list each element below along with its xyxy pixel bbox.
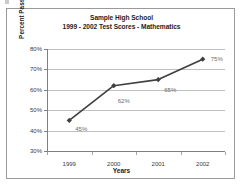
data-point-label: 65%: [164, 87, 176, 93]
x-axis-tick-label: 2001: [152, 161, 165, 167]
data-point-label: 75%: [211, 56, 223, 62]
y-axis-tick-label: 80%: [30, 46, 42, 52]
chart-subtitle: 1999 - 2002 Test Scores - Mathematics: [7, 22, 236, 31]
data-point-marker: [156, 77, 161, 82]
x-axis-tick: [225, 152, 226, 155]
x-axis-tick-label: 2002: [196, 161, 209, 167]
x-axis-tick: [136, 152, 137, 155]
x-axis-tick: [181, 152, 182, 155]
chart-title: Sample High School: [7, 13, 236, 22]
data-point-label: 62%: [118, 98, 130, 104]
x-axis-tick-label: 2000: [107, 161, 120, 167]
data-series-line: [47, 49, 225, 152]
data-point-label: 45%: [75, 126, 87, 132]
y-axis-tick-label: 30%: [30, 148, 42, 154]
chart-container: Sample High School 1999 - 2002 Test Scor…: [6, 8, 235, 179]
x-axis-tick-label: 1999: [63, 161, 76, 167]
y-axis-tick-label: 40%: [30, 128, 42, 134]
chart-title-block: Sample High School 1999 - 2002 Test Scor…: [7, 13, 236, 31]
x-axis-tick: [47, 152, 48, 155]
x-axis-title: Years: [7, 167, 236, 174]
corner-artifact: [5, 0, 9, 4]
y-axis-title: Percent Passing: [18, 0, 25, 59]
y-axis-tick-label: 50%: [30, 107, 42, 113]
data-point-marker: [200, 57, 205, 62]
y-axis-tick-label: 60%: [30, 87, 42, 93]
plot-area: 80%70%60%50%40%30% 1999200020012002 45%6…: [47, 49, 225, 151]
x-axis-tick: [92, 152, 93, 155]
y-axis-tick-label: 70%: [30, 66, 42, 72]
